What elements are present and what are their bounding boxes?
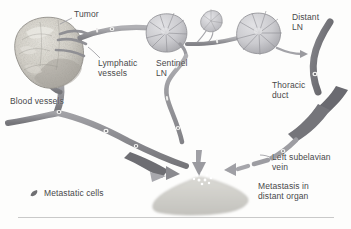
label-blood-vessels: Blood vessels xyxy=(10,96,64,106)
efferent-vessel-to-duct xyxy=(277,48,308,58)
blood-vessel-network xyxy=(8,80,186,166)
small-lymph-node xyxy=(196,9,223,44)
distant-lymph-node xyxy=(236,11,282,55)
footer-divider xyxy=(18,217,334,218)
label-sentinel-ln: Sentinel LN xyxy=(156,58,188,78)
metastasis-diagram-figure: Tumor Lymphatic vessels Sentinel LN Dist… xyxy=(0,0,351,229)
primary-tumor-mass xyxy=(15,17,88,88)
convergence-arrows xyxy=(124,150,206,182)
label-lymphatic-vessels: Lymphatic vessels xyxy=(98,58,137,78)
legend-label-metastatic-cells: Metastatic cells xyxy=(44,188,104,198)
lymphatic-trunk-to-distant-node xyxy=(187,38,238,44)
sentinel-lymph-node xyxy=(146,13,187,56)
metastatic-cell-icon xyxy=(29,189,40,198)
label-distant-ln: Distant LN xyxy=(292,12,319,32)
label-thoracic-duct: Thoracic duct xyxy=(272,80,305,100)
label-left-subclavian-vein: Left subelavian vein xyxy=(272,152,331,172)
lymphatic-vessel-network xyxy=(80,27,150,38)
label-metastasis-distant-organ: Metastasis in distant organ xyxy=(258,181,309,201)
label-tumor: Tumor xyxy=(74,9,99,19)
